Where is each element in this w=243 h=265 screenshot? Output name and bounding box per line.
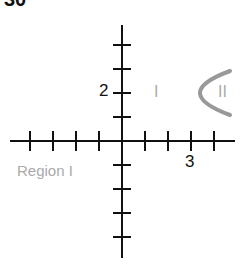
region-i-caption: Region I xyxy=(17,162,73,179)
coordinate-plane xyxy=(0,0,243,265)
region-i-label: I xyxy=(154,83,158,101)
y-tick-label-2: 2 xyxy=(99,81,108,101)
x-tick-label-3: 3 xyxy=(185,152,194,172)
region-ii-label: II xyxy=(218,83,227,101)
